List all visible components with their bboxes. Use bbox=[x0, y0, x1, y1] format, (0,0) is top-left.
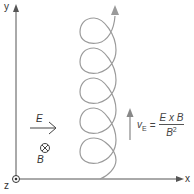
diagram-canvas bbox=[0, 0, 194, 194]
y-axis-label: y bbox=[4, 2, 9, 12]
y-axis bbox=[13, 4, 19, 179]
y-axis-arrowhead-icon bbox=[13, 4, 19, 12]
x-axis-arrowhead-icon bbox=[176, 176, 184, 182]
formula-numerator: E x B bbox=[159, 112, 185, 125]
x-axis-label: x bbox=[185, 174, 190, 184]
e-field-arrow-icon bbox=[30, 122, 56, 134]
exb-drift-diagram: y x z E B vE = E x B B2 bbox=[0, 0, 194, 194]
formula-denominator: B2 bbox=[166, 125, 177, 138]
formula-fraction: E x B B2 bbox=[159, 112, 185, 138]
trajectory-arrowhead-icon bbox=[111, 5, 119, 15]
b-field-label: B bbox=[37, 155, 44, 165]
particle-trajectory bbox=[80, 5, 119, 179]
z-axis-out-of-page-icon bbox=[13, 176, 20, 183]
velocity-symbol: vE bbox=[137, 119, 147, 132]
b-field-into-page-icon bbox=[41, 144, 50, 153]
drift-velocity-arrow-icon bbox=[127, 108, 134, 140]
equals-sign: = bbox=[150, 120, 156, 131]
e-field-label: E bbox=[36, 114, 43, 124]
drift-velocity-formula: vE = E x B B2 bbox=[137, 112, 184, 138]
z-axis-label: z bbox=[4, 181, 9, 191]
